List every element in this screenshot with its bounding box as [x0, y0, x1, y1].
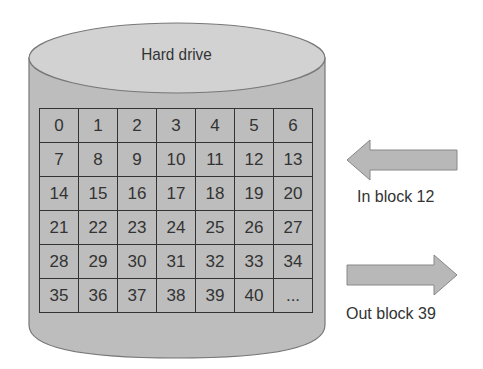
block-cell: 38	[157, 279, 196, 313]
block-cell: 22	[79, 211, 118, 245]
block-cell: 13	[274, 143, 313, 177]
block-cell: 4	[196, 109, 235, 143]
grid-row: 78910111213	[40, 143, 313, 177]
block-cell: 3	[157, 109, 196, 143]
block-cell: 28	[40, 245, 79, 279]
block-cell: 25	[196, 211, 235, 245]
block-cell: 18	[196, 177, 235, 211]
block-cell: 10	[157, 143, 196, 177]
grid-row: 28293031323334	[40, 245, 313, 279]
block-cell: 33	[235, 245, 274, 279]
block-cell: 21	[40, 211, 79, 245]
block-cell: 15	[79, 177, 118, 211]
out-arrow-icon	[347, 255, 457, 295]
block-cell: 30	[118, 245, 157, 279]
block-cell: 24	[157, 211, 196, 245]
block-cell: 20	[274, 177, 313, 211]
block-cell: 39	[196, 279, 235, 313]
block-grid: 0123456789101112131415161718192021222324…	[39, 108, 313, 313]
block-cell: 6	[274, 109, 313, 143]
block-cell: ...	[274, 279, 313, 313]
block-cell: 23	[118, 211, 157, 245]
block-cell: 8	[79, 143, 118, 177]
block-cell: 31	[157, 245, 196, 279]
block-cell: 11	[196, 143, 235, 177]
block-cell: 32	[196, 245, 235, 279]
block-cell: 40	[235, 279, 274, 313]
block-cell: 0	[40, 109, 79, 143]
block-cell: 14	[40, 177, 79, 211]
block-cell: 37	[118, 279, 157, 313]
in-arrow-icon	[347, 140, 457, 180]
in-block-label: In block 12	[357, 188, 434, 206]
block-cell: 29	[79, 245, 118, 279]
block-cell: 2	[118, 109, 157, 143]
drive-title: Hard drive	[43, 45, 310, 65]
block-cell: 9	[118, 143, 157, 177]
block-cell: 12	[235, 143, 274, 177]
block-cell: 16	[118, 177, 157, 211]
grid-row: 0123456	[40, 109, 313, 143]
out-block-label: Out block 39	[346, 305, 436, 323]
block-cell: 7	[40, 143, 79, 177]
block-cell: 1	[79, 109, 118, 143]
block-cell: 36	[79, 279, 118, 313]
block-cell: 5	[235, 109, 274, 143]
grid-row: 14151617181920	[40, 177, 313, 211]
grid-row: 21222324252627	[40, 211, 313, 245]
grid-row: 353637383940...	[40, 279, 313, 313]
block-cell: 27	[274, 211, 313, 245]
block-cell: 19	[235, 177, 274, 211]
block-cell: 17	[157, 177, 196, 211]
block-cell: 35	[40, 279, 79, 313]
block-cell: 26	[235, 211, 274, 245]
block-cell: 34	[274, 245, 313, 279]
